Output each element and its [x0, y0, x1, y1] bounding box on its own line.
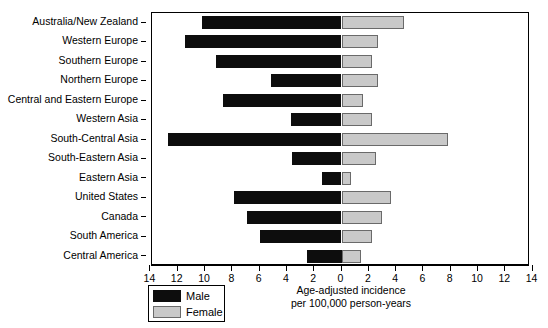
- y-axis-label: South-Eastern Asia: [48, 148, 138, 167]
- bar-male: [202, 16, 341, 29]
- bar-female: [342, 16, 405, 29]
- y-axis-tick: [141, 197, 146, 198]
- y-axis-label: Canada: [101, 207, 138, 226]
- x-axis-tick-label: 2: [310, 272, 316, 284]
- bar-female: [342, 191, 391, 204]
- x-axis-tick-label: 0: [338, 272, 344, 284]
- legend-label-female: Female: [186, 304, 223, 320]
- x-axis-tick-label: 10: [198, 272, 210, 284]
- legend-swatch-female: [153, 306, 181, 318]
- bar-male: [223, 94, 342, 107]
- legend: Male Female: [148, 285, 225, 322]
- x-axis-tick-label: 4: [392, 272, 398, 284]
- bar-row: [152, 91, 528, 110]
- bar-row: [152, 52, 528, 71]
- x-axis-tick: [395, 265, 396, 271]
- y-axis-tick: [141, 236, 146, 237]
- y-axis-label: Central and Eastern Europe: [8, 90, 138, 109]
- x-axis-tick: [177, 265, 178, 271]
- bar-male: [234, 191, 342, 204]
- bar-male: [260, 230, 342, 243]
- y-axis-label: Central America: [63, 246, 138, 265]
- y-axis-tick: [141, 61, 146, 62]
- bar-female: [342, 211, 383, 224]
- bar-male: [271, 74, 342, 87]
- bar-row: [152, 13, 528, 32]
- x-axis-tick: [259, 265, 260, 271]
- y-axis-tick: [141, 255, 146, 256]
- x-axis-tick: [313, 265, 314, 271]
- bar-female: [342, 35, 379, 48]
- x-axis-tick: [286, 265, 287, 271]
- bar-row: [152, 169, 528, 188]
- x-axis-tick-label: 6: [256, 272, 262, 284]
- plot-area: [151, 12, 529, 265]
- y-axis-label: Western Asia: [76, 109, 138, 128]
- y-axis-tick: [141, 216, 146, 217]
- y-axis-tick: [141, 177, 146, 178]
- y-axis-tick: [141, 119, 146, 120]
- x-axis-tick-label: 8: [447, 272, 453, 284]
- legend-swatch-male: [153, 290, 181, 302]
- bar-row: [152, 71, 528, 90]
- x-axis-tick: [504, 265, 505, 271]
- x-axis-title-line-1: Age-adjusted incidence: [248, 284, 454, 297]
- bar-male: [307, 250, 341, 263]
- y-axis-tick: [141, 41, 146, 42]
- bar-row: [152, 188, 528, 207]
- bar-male: [185, 35, 342, 48]
- x-axis-title: Age-adjusted incidence per 100,000 perso…: [248, 284, 454, 309]
- x-axis-tick: [477, 265, 478, 271]
- bar-male: [247, 211, 341, 224]
- x-axis-tick-label: 10: [471, 272, 483, 284]
- x-axis-tick: [532, 265, 533, 271]
- y-axis-label: Southern Europe: [59, 51, 138, 70]
- y-axis-tick: [141, 100, 146, 101]
- bar-female: [342, 55, 372, 68]
- y-axis-label: South-Central Asia: [50, 129, 138, 148]
- x-axis-tick: [422, 265, 423, 271]
- bar-female: [342, 230, 372, 243]
- bar-male: [168, 133, 341, 146]
- y-axis-tick: [141, 22, 146, 23]
- bar-female: [342, 152, 376, 165]
- y-axis-label: South America: [70, 226, 138, 245]
- x-axis-tick: [231, 265, 232, 271]
- x-axis-tick-label: 4: [283, 272, 289, 284]
- x-axis-tick-label: 2: [365, 272, 371, 284]
- bar-male: [216, 55, 342, 68]
- bar-female: [342, 74, 379, 87]
- bar-row: [152, 32, 528, 51]
- y-axis-label: Northern Europe: [60, 70, 138, 89]
- bar-female: [342, 94, 364, 107]
- diverging-bar-chart: Australia/New ZealandWestern EuropeSouth…: [0, 0, 548, 328]
- bar-female: [342, 172, 352, 185]
- bar-female: [342, 133, 448, 146]
- y-axis-tick: [141, 80, 146, 81]
- y-axis-label: Australia/New Zealand: [32, 12, 138, 31]
- x-axis-title-line-2: per 100,000 person-years: [248, 297, 454, 310]
- bar-female: [342, 113, 372, 126]
- x-axis-tick: [341, 265, 342, 271]
- bar-row: [152, 149, 528, 168]
- bar-row: [152, 130, 528, 149]
- x-axis-tick-label: 14: [144, 272, 156, 284]
- x-axis-tick: [204, 265, 205, 271]
- bar-male: [291, 113, 342, 126]
- x-axis-tick-label: 6: [419, 272, 425, 284]
- x-axis-tick-label: 8: [228, 272, 234, 284]
- bar-male: [292, 152, 341, 165]
- bar-row: [152, 110, 528, 129]
- y-axis-tick: [141, 139, 146, 140]
- x-axis-tick-label: 14: [526, 272, 538, 284]
- y-axis-label-group: Australia/New ZealandWestern EuropeSouth…: [0, 12, 146, 265]
- bar-row: [152, 247, 528, 266]
- x-axis-tick: [450, 265, 451, 271]
- y-axis-tick: [141, 158, 146, 159]
- y-axis-label: Western Europe: [62, 31, 138, 50]
- bar-row: [152, 227, 528, 246]
- y-axis-label: Eastern Asia: [79, 168, 138, 187]
- bar-female: [342, 250, 361, 263]
- legend-label-male: Male: [186, 288, 210, 304]
- bar-row: [152, 208, 528, 227]
